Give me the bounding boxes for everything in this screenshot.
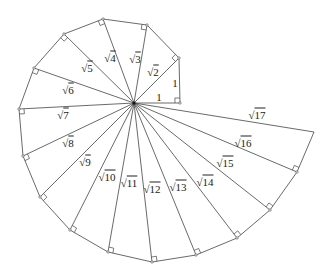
vertex-dot [146, 24, 148, 26]
right-angle-icon [234, 231, 241, 235]
unit-edge-14 [237, 210, 270, 238]
radicand: 2 [153, 66, 159, 78]
vertex-dot [39, 196, 41, 198]
radicand: 7 [63, 109, 69, 121]
radicand: 3 [135, 53, 141, 65]
vertex-dot [63, 33, 65, 35]
radicand: 8 [68, 137, 74, 149]
label-sqrt16: √16 [234, 138, 251, 149]
unit-edge-13 [196, 238, 237, 255]
right-angle-icon [172, 54, 176, 61]
vertex-dot [269, 209, 271, 211]
label-sqrt3: √3 [129, 54, 141, 65]
right-angle-icon [151, 256, 157, 261]
unit-edge-7 [19, 109, 23, 156]
label-sqrt6: √6 [62, 85, 74, 96]
right-angle-markers [18, 18, 299, 263]
spoke-sqrt17 [134, 103, 314, 132]
spiral-of-theodorus-diagram [0, 0, 336, 280]
vertex-dot [69, 229, 71, 231]
spoke-sqrt14 [134, 103, 237, 238]
label-one-base: 1 [156, 92, 162, 103]
label-sqrt14: √14 [196, 177, 213, 188]
unit-edge-15 [270, 172, 297, 210]
unit-edge-16 [297, 132, 314, 172]
vertex-dot [102, 18, 104, 20]
center-point [133, 102, 136, 105]
label-sqrt12: √12 [143, 184, 160, 195]
label-sqrt8: √8 [62, 138, 74, 149]
vertex-dot [179, 102, 181, 104]
vertex-dot [151, 261, 153, 263]
vertex-dot [195, 254, 197, 256]
radicand: 9 [85, 156, 91, 168]
vertex-dot [18, 108, 20, 110]
vertex-dot [178, 57, 180, 59]
unit-edge-2 [147, 25, 179, 58]
label-sqrt15: √15 [216, 158, 233, 169]
radicand: 6 [68, 84, 74, 96]
radicand: 10 [105, 171, 116, 183]
unit-edge-11 [108, 252, 152, 262]
label-sqrt11: √11 [121, 178, 138, 189]
radicand: 4 [110, 52, 116, 64]
radicand: 12 [150, 183, 161, 195]
unit-edge-6 [19, 68, 34, 109]
radicand: 15 [223, 157, 234, 169]
label-sqrt7: √7 [57, 110, 69, 121]
vertex-dot [22, 155, 24, 157]
radicand: 13 [176, 181, 187, 193]
unit-edge-10 [70, 230, 108, 252]
label-sqrt9: √9 [79, 157, 91, 168]
right-angle-icon [61, 38, 68, 42]
unit-edge-9 [40, 197, 70, 230]
label-sqrt5: √5 [81, 63, 93, 74]
radicand: 17 [255, 109, 266, 121]
unit-edge-8 [23, 156, 40, 197]
label-sqrt4: √4 [104, 53, 116, 64]
vertex-dot [33, 67, 35, 69]
vertex-dot [236, 237, 238, 239]
label-sqrt2: √2 [147, 67, 159, 78]
radicand: 14 [203, 176, 214, 188]
spoke-sqrt13 [134, 103, 196, 255]
radicand: 16 [241, 137, 252, 149]
unit-edge-1 [179, 58, 180, 103]
unit-edge-12 [152, 255, 196, 262]
label-sqrt10: √10 [98, 172, 115, 183]
unit-edge-5 [34, 34, 64, 68]
spoke-sqrt5 [64, 34, 134, 103]
spoke-sqrt8 [23, 103, 134, 156]
vertex-dot [296, 171, 298, 173]
spoke-sqrt7 [19, 103, 134, 109]
radicand: 11 [127, 177, 138, 189]
unit-edge-3 [103, 19, 147, 25]
label-sqrt13: √13 [169, 182, 186, 193]
radicand: 5 [87, 62, 93, 74]
right-angle-icon [266, 203, 273, 207]
label-sqrt17: √17 [248, 110, 265, 121]
vertex-dot [107, 251, 109, 253]
label-one-side: 1 [172, 78, 178, 89]
right-angle-icon [43, 193, 47, 200]
unit-edge-4 [64, 19, 103, 34]
